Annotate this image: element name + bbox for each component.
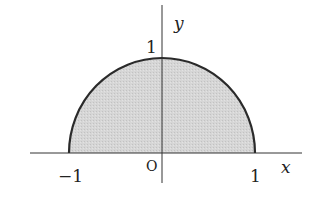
semicircle-diagram: y 1 O −1 1 x <box>0 0 322 221</box>
y-axis-label: y <box>173 13 184 33</box>
x-axis-label: x <box>281 157 291 177</box>
x-tick-1-label: 1 <box>250 166 261 186</box>
x-tick-neg1-label: −1 <box>58 166 83 186</box>
y-tick-1-label: 1 <box>146 37 157 57</box>
origin-label: O <box>146 158 157 174</box>
